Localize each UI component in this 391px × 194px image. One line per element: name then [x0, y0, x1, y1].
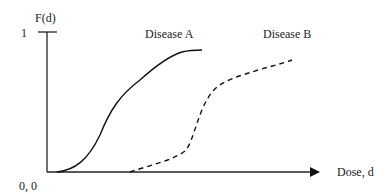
disease-b-curve: [130, 60, 292, 172]
disease-a-curve: [57, 50, 202, 172]
x-axis-label: Dose, d: [337, 166, 374, 178]
y-axis-label: F(d): [35, 12, 56, 24]
dose-response-diagram: [0, 0, 391, 194]
x-axis-arrowhead: [310, 167, 320, 177]
disease-b-label: Disease B: [263, 28, 311, 40]
origin-label: 0, 0: [19, 180, 37, 192]
disease-a-label: Disease A: [145, 28, 193, 40]
y-tick-one-label: 1: [21, 27, 27, 39]
